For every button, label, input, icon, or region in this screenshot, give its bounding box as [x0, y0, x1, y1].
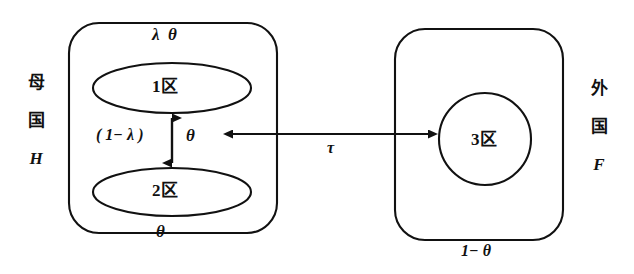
foreign-country-label-char1: 外	[591, 80, 608, 97]
foreign-country-side-label: 外 国 F	[585, 80, 613, 173]
home-country-bottom-caption: θ	[156, 223, 165, 240]
home-country-side-label: 母 国 H	[22, 74, 50, 167]
home-country-top-caption: λ θ	[152, 26, 177, 43]
cross-border-flow-label: τ	[327, 140, 334, 156]
home-country-label-char1: 母	[28, 74, 45, 91]
foreign-country-bottom-caption: 1− θ	[461, 243, 491, 259]
internal-flow-label-right: θ	[186, 127, 195, 144]
home-country-label-char2: 国	[28, 112, 45, 129]
home-country-symbol: H	[29, 150, 42, 167]
region-1-label: 1区	[152, 78, 178, 95]
diagram-canvas: 母 国 H 外 国 F λ θ θ 1− θ τ 1区 2区 3区 ( 1− λ…	[0, 0, 634, 274]
internal-flow-label-left: ( 1− λ )	[96, 127, 143, 143]
region-2-label: 2区	[152, 182, 178, 199]
region-3-label: 3区	[471, 131, 497, 148]
foreign-country-symbol: F	[593, 156, 604, 173]
foreign-country-label-char2: 国	[591, 118, 608, 135]
